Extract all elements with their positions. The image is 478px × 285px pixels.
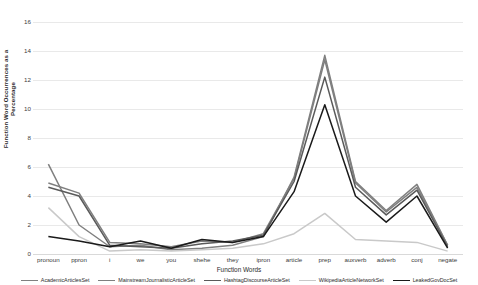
- y-tick-label: 16: [5, 19, 31, 25]
- x-tick-label: article: [286, 256, 303, 263]
- legend-item[interactable]: HashtagDiscourseArticleSet: [204, 277, 290, 283]
- x-tick-label: you: [166, 256, 176, 263]
- x-axis-title: Function Words: [0, 266, 478, 273]
- gridline-0: [33, 254, 463, 255]
- y-tick-label: 2: [5, 222, 31, 228]
- series-line: [48, 105, 447, 249]
- x-tick-label: ppron: [71, 256, 87, 263]
- x-tick-label: they: [227, 256, 239, 263]
- x-tick-label: conj: [411, 256, 422, 263]
- x-tick-label: shehe: [193, 256, 210, 263]
- x-tick-label: prep: [319, 256, 331, 263]
- y-tick-label: 0: [5, 251, 31, 257]
- legend-label: LeakedGovDocSet: [413, 277, 458, 283]
- series-lines: [33, 22, 463, 254]
- legend-label: WikipediaArticleNetworkSet: [319, 277, 384, 283]
- legend-item[interactable]: MainstreamJournalisticArticleSet: [98, 277, 195, 283]
- legend-label: HashtagDiscourseArticleSet: [224, 277, 290, 283]
- line-chart: 0246810121416 Function Word Occurrences …: [0, 0, 478, 285]
- y-tick-label: 6: [5, 164, 31, 170]
- y-tick-label: 4: [5, 193, 31, 199]
- legend-color-swatch: [393, 280, 410, 281]
- legend-color-swatch: [204, 280, 221, 281]
- legend-color-swatch: [299, 280, 316, 281]
- legend-color-swatch: [98, 280, 115, 281]
- plot-area: [33, 22, 463, 254]
- y-axis-title: Function Word Occurrences as a Percentag…: [2, 34, 16, 164]
- legend-label: AcademicArticlesSet: [41, 277, 89, 283]
- legend-item[interactable]: WikipediaArticleNetworkSet: [299, 277, 384, 283]
- series-line: [48, 60, 447, 247]
- legend: AcademicArticlesSetMainstreamJournalisti…: [0, 275, 478, 285]
- legend-color-swatch: [21, 280, 38, 281]
- x-tick-label: we: [137, 256, 145, 263]
- x-tick-label: pronoun: [37, 256, 60, 263]
- x-tick-label: negate: [438, 256, 457, 263]
- x-tick-label: i: [109, 256, 110, 263]
- series-line: [48, 77, 447, 248]
- x-tick-label: ipron: [256, 256, 270, 263]
- x-tick-label: auxverb: [344, 256, 366, 263]
- legend-item[interactable]: LeakedGovDocSet: [393, 277, 458, 283]
- legend-item[interactable]: AcademicArticlesSet: [21, 277, 89, 283]
- legend-label: MainstreamJournalisticArticleSet: [118, 277, 195, 283]
- x-tick-label: adverb: [377, 256, 396, 263]
